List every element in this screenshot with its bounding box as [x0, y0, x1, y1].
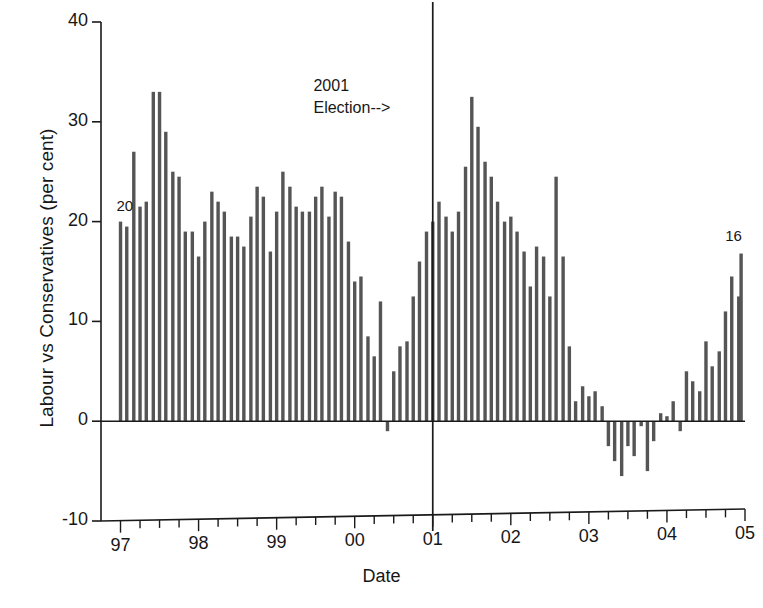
bar	[444, 217, 447, 422]
bar	[320, 187, 323, 422]
bar	[145, 202, 148, 422]
bar	[593, 391, 596, 421]
bar	[483, 162, 486, 421]
bar	[718, 351, 721, 421]
x-axis-tick-label: 00	[335, 530, 375, 551]
bar	[457, 212, 460, 422]
bar	[230, 237, 233, 422]
x-axis-tick-label: 05	[725, 523, 763, 544]
x-axis-tick-label: 03	[569, 526, 609, 547]
x-axis-tick-label: 02	[491, 527, 531, 548]
bar	[704, 341, 707, 421]
y-axis-tick-label: 10	[36, 309, 88, 330]
bar	[386, 421, 389, 431]
bar	[138, 207, 141, 422]
bar	[288, 187, 291, 422]
bar	[581, 386, 584, 421]
bars-group	[119, 92, 743, 476]
bar	[203, 222, 206, 422]
bar	[542, 257, 545, 422]
bar	[308, 212, 311, 422]
bar	[626, 421, 629, 446]
bar	[451, 232, 454, 422]
bar	[269, 252, 272, 422]
bar	[711, 366, 714, 421]
bar	[333, 192, 336, 422]
bar	[125, 227, 128, 422]
bar	[568, 346, 571, 421]
bar	[119, 222, 122, 422]
x-axis-tick-label: 01	[413, 529, 453, 550]
bar	[600, 406, 603, 421]
bar	[223, 212, 226, 422]
bar	[405, 341, 408, 421]
bar	[587, 396, 590, 421]
bar-last	[739, 254, 742, 422]
y-axis-tick-label: 20	[36, 210, 88, 231]
bar	[503, 222, 506, 422]
bar	[632, 421, 635, 456]
bar	[184, 232, 187, 422]
bar	[242, 247, 245, 422]
bar	[164, 132, 167, 421]
bar	[216, 202, 219, 422]
bar	[392, 371, 395, 421]
bar	[490, 177, 493, 422]
bar	[535, 247, 538, 422]
bar	[398, 346, 401, 421]
bar	[152, 92, 155, 421]
y-axis-tick-label: -10	[36, 509, 88, 530]
bar	[347, 242, 350, 422]
bar	[574, 401, 577, 421]
bar	[496, 202, 499, 422]
bar	[698, 391, 701, 421]
bar	[620, 421, 623, 476]
x-axis-tick-label: 04	[647, 524, 687, 545]
bar	[554, 177, 557, 422]
x-axis-spine	[101, 509, 745, 521]
x-axis-tick-label: 97	[101, 535, 141, 556]
bar	[210, 192, 213, 422]
bar	[158, 92, 161, 421]
bar	[425, 232, 428, 422]
bar	[281, 172, 284, 422]
bar	[379, 301, 382, 421]
first-value-label: 20	[117, 197, 134, 214]
bar	[366, 336, 369, 421]
bar	[132, 152, 135, 421]
bar	[359, 276, 362, 421]
bar	[294, 207, 297, 422]
bar	[679, 421, 682, 431]
election-annotation: 2001 Election-->	[313, 75, 390, 119]
bar	[470, 97, 473, 421]
bar	[730, 276, 733, 421]
bar	[197, 257, 200, 422]
bar	[437, 202, 440, 422]
bar	[412, 296, 415, 421]
bar	[301, 212, 304, 422]
bar	[177, 177, 180, 422]
bar	[529, 286, 532, 421]
y-axis-tick-label: 0	[36, 409, 88, 430]
bar	[255, 187, 258, 422]
last-value-label: 16	[725, 227, 742, 244]
bar	[340, 197, 343, 422]
bar	[561, 257, 564, 422]
bar	[171, 172, 174, 422]
x-axis-label: Date	[0, 566, 763, 587]
bar	[327, 217, 330, 422]
bar	[691, 381, 694, 421]
y-axis-tick-label: 30	[36, 110, 88, 131]
bar	[522, 252, 525, 422]
bar	[236, 237, 239, 422]
bar	[659, 413, 662, 421]
bar	[613, 421, 616, 461]
bar	[607, 421, 610, 446]
bar	[373, 356, 376, 421]
bar	[314, 197, 317, 422]
bar	[515, 232, 518, 422]
bar	[249, 217, 252, 422]
bar	[262, 197, 265, 422]
bar	[353, 281, 356, 421]
bar	[476, 127, 479, 421]
